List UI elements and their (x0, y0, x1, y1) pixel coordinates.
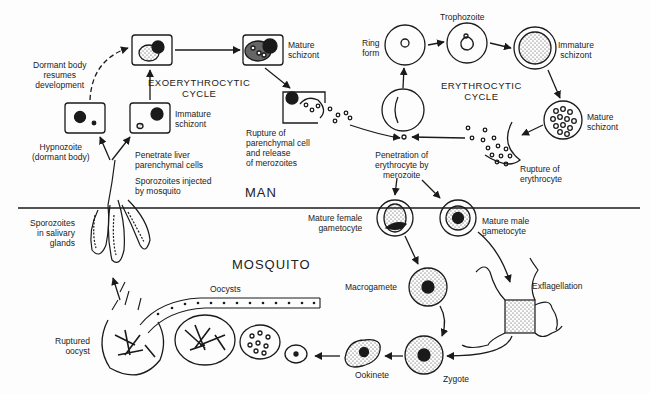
arrow-oocyst-to-salivary (113, 278, 120, 300)
label-ookinete: Ookinete (355, 370, 389, 380)
male-gametocyte (440, 200, 476, 236)
rbc-immature-schizont (514, 27, 556, 69)
ookinete (345, 340, 380, 367)
label-ring-form: Ring form (362, 38, 379, 58)
arrow-immature-to-mature (548, 70, 560, 98)
arrow-ring-to-troph (428, 42, 444, 45)
cycle-label-exoerythrocytic: EXOERYTHROCYTIC CYCLE (148, 77, 250, 99)
label-macrogamete: Macrogamete (345, 282, 397, 292)
rbc-ring-form (385, 25, 425, 65)
arrow-mature-to-rupture (265, 68, 290, 88)
liver-cell-top (132, 35, 172, 65)
label-exflagellation: Exflagellation (532, 281, 583, 291)
cycle-label-erythrocytic: ERYTHROCYTIC CYCLE (441, 80, 522, 102)
arrow-macrogamete-to-zygote (440, 306, 445, 336)
label-oocysts: Oocysts (210, 284, 241, 294)
arrow-penetration-to-ring (403, 68, 404, 88)
liver-cell-rupture (283, 92, 352, 123)
liver-cell-immature-schizont (130, 103, 170, 133)
label-trophozoite: Trophozoite (440, 12, 485, 22)
oocyst-small (285, 345, 307, 363)
arrow-male-to-exflagellation (478, 232, 510, 282)
rbc-mature-schizont (544, 101, 582, 139)
arrow-merozoites-to-rbc (350, 125, 400, 138)
arrow-sporozoite-to-immature (112, 137, 130, 160)
gut-wall (140, 298, 320, 333)
arrow-to-female-gametocyte (395, 178, 397, 195)
label-hypnozoite: Hypnozoite (dormant body) (32, 142, 90, 162)
arrow-sporozoite-to-hypnozoite (100, 137, 110, 160)
region-label-man: MAN (245, 186, 277, 200)
label-rupture-parenchymal: Rupture of parenchymal cell and release … (246, 128, 310, 168)
exflagellation-cell (462, 258, 562, 348)
arrow-to-male-gametocyte (422, 180, 440, 198)
label-penetration-erythrocyte: Penetration of erythrocyte by merozoite (375, 150, 428, 180)
label-dormant-resumes: Dormant body resumes development (33, 60, 86, 90)
rbc-penetration (382, 89, 424, 139)
label-immature-schizont-rbc: Immature schizont (558, 40, 594, 60)
arrow-rupture-to-penetration (412, 137, 465, 138)
oocyst-medium (240, 325, 280, 359)
arrow-mature-to-rupture (522, 125, 543, 135)
label-ruptured-oocyst: Ruptured oocyst (55, 336, 90, 356)
label-mature-schizont-liver: Mature schizont (288, 40, 319, 60)
diagram-drawing (0, 0, 650, 394)
rbc-rupture (466, 122, 520, 166)
macrogamete (409, 268, 447, 306)
zygote (405, 336, 443, 374)
arrow-exflagellation-to-zygote (447, 336, 512, 356)
liver-cell-mature-schizont (243, 35, 283, 65)
label-sporozoites-injected: Sporozoites injected by mosquito (135, 176, 212, 196)
label-mature-female-gametocyte: Mature female gametocyte (308, 213, 362, 233)
arrow-female-to-macrogamete (405, 236, 418, 264)
rbc-trophozoite (447, 23, 487, 63)
ruptured-oocyst (102, 282, 164, 375)
arrow-troph-to-immature (490, 43, 511, 48)
label-mature-male-gametocyte: Mature male gametocyte (482, 216, 529, 236)
liver-cell-hypnozoite (65, 103, 105, 133)
region-label-mosquito: MOSQUITO (232, 258, 311, 272)
label-zygote: Zygote (443, 374, 469, 384)
label-immature-schizont-liver: Immature schizont (175, 109, 211, 129)
female-gametocyte (377, 200, 413, 236)
label-penetrate-liver: Penetrate liver parenchymal cells (135, 150, 203, 170)
malaria-life-cycle-diagram: MAN MOSQUITO EXOERYTHROCYTIC CYCLE ERYTH… (0, 0, 650, 394)
arrow-dormant-resumes (90, 48, 128, 100)
label-mature-schizont-rbc: Mature schizont (587, 112, 618, 132)
label-rupture-erythrocyte: Rupture of erythrocyte (520, 164, 562, 184)
label-sporozoites-salivary: Sporozoites in salivary glands (30, 218, 75, 248)
oocyst-large (175, 315, 235, 365)
